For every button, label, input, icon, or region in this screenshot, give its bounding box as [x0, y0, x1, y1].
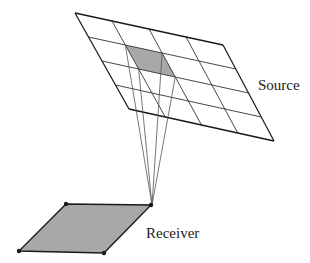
source-top-edge — [75, 13, 223, 45]
receiver-quad — [19, 204, 151, 253]
receiver-vertex-dot — [102, 251, 106, 255]
source-patch-grid — [75, 13, 274, 141]
source-left-edge — [75, 13, 129, 109]
receiver-vertex-dot — [17, 249, 21, 253]
receiver-label: Receiver — [146, 225, 199, 241]
source-right-edge — [223, 45, 274, 141]
receiver-patch — [17, 202, 153, 255]
grid-row-line — [116, 85, 262, 117]
receiver-vertex-dot — [64, 202, 68, 206]
source-bottom-edge — [129, 109, 274, 141]
receiver-vertex-dot — [149, 203, 153, 207]
highlighted-source-cell — [125, 45, 175, 77]
source-label: Source — [258, 77, 300, 93]
ray-line — [152, 77, 175, 205]
ray-line — [152, 53, 162, 205]
diagram-canvas: Source Receiver — [0, 0, 310, 263]
